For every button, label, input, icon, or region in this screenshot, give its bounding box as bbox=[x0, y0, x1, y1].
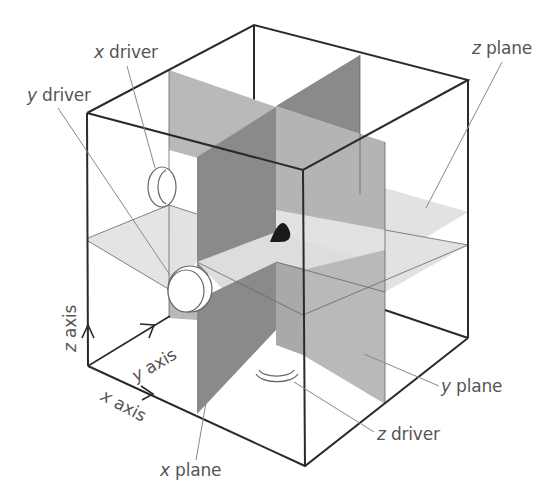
label-y-plane: y plane bbox=[441, 378, 502, 395]
cube-diagram bbox=[0, 0, 547, 498]
label-z-driver: z driver bbox=[377, 426, 440, 443]
label-z-plane: z plane bbox=[472, 40, 532, 57]
y-driver bbox=[168, 266, 212, 312]
x-driver bbox=[148, 167, 176, 207]
z-plane-far-left bbox=[88, 205, 170, 290]
label-x-driver: x driver bbox=[94, 44, 158, 61]
label-x-plane: x plane bbox=[160, 462, 221, 479]
label-z-axis: z axis bbox=[62, 305, 79, 352]
leader-z-plane bbox=[426, 62, 502, 208]
label-y-driver: y driver bbox=[27, 87, 91, 104]
leader-x-driver bbox=[127, 66, 155, 168]
z-driver bbox=[256, 370, 298, 382]
